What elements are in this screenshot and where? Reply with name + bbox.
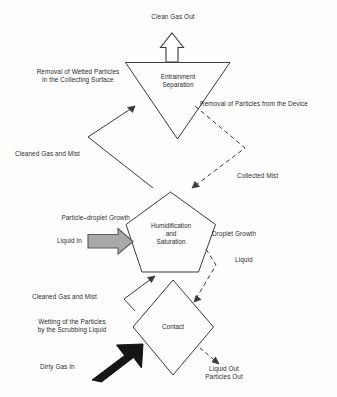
liquid-in-arrow-icon: [88, 229, 133, 255]
label-liquid-out: Liquid Out: [192, 365, 256, 373]
label-droplet-growth: Droplet Growth: [212, 230, 302, 238]
diagram-canvas: Clean Gas Out Removal of Wetted Particle…: [0, 0, 337, 397]
label-wetting-of-the-particles-line-2: by the Scrubbing Liquid: [20, 326, 124, 334]
label-removal-of-wetted-particles-line-1: Removal of Wetted Particles: [14, 68, 142, 76]
label-cleaned-gas-and-mist-upper: Cleaned Gas and Mist: [15, 150, 115, 158]
cleaned-gas-and-mist-upper-arrow: [88, 106, 153, 188]
liquid-dashed-arrow: [194, 249, 216, 302]
label-removal-of-wetted-particles-line-2: in the Collecting Surface: [14, 76, 142, 84]
label-liquid: Liquid: [235, 256, 295, 264]
label-collected-mist: Collected Mist: [237, 172, 317, 180]
label-dirty-gas-in: Dirty Gas In: [40, 363, 100, 371]
label-particles-out: Particles Out: [192, 373, 256, 381]
entrainment-separation-label-line-2: Separation: [140, 81, 216, 89]
humidification-and-saturation-label-line-3: Saturation: [133, 238, 209, 246]
label-particle-droplet-growth: Particle–droplet Growth: [30, 214, 130, 222]
label-wetting-of-the-particles-line-1: Wetting of the Particles: [20, 318, 124, 326]
contact-label: Contact: [145, 323, 201, 331]
clean-gas-out-arrow-icon: [161, 33, 184, 62]
label-removal-of-particles-from-the-device: Removal of Particles from the Device: [200, 100, 334, 108]
label-liquid-in: Liquid In: [30, 237, 82, 245]
scrubber-flow-diagram: [0, 0, 337, 397]
label-cleaned-gas-and-mist-lower: Cleaned Gas and Mist: [32, 293, 136, 301]
label-clean-gas-out: Clean Gas Out: [114, 13, 232, 21]
liquid-out-particles-out-arrow: [200, 348, 219, 364]
